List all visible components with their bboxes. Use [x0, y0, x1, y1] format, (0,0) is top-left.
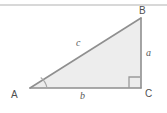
side-label-b: b [80, 91, 85, 101]
geometry-figure: A B C a b c [0, 0, 167, 113]
side-label-c: c [76, 38, 80, 48]
vertex-label-b: B [139, 6, 146, 16]
vertex-label-a: A [11, 90, 18, 100]
vertex-label-c: C [145, 89, 152, 99]
side-label-a: a [146, 48, 151, 58]
